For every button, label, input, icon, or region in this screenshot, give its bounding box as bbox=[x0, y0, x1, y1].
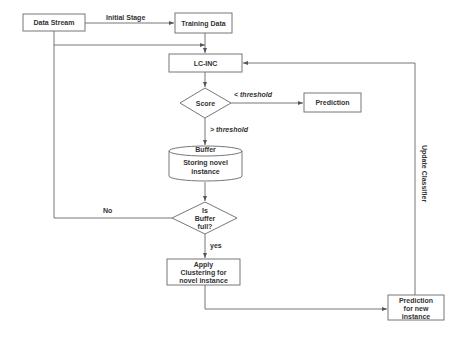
node-is-buffer-full: Is Buffer full? bbox=[172, 202, 237, 234]
decision-line3: full? bbox=[198, 223, 213, 230]
prediction-label: Prediction bbox=[315, 99, 349, 106]
clustering-line3: novel instance bbox=[179, 277, 228, 284]
label-yes: yes bbox=[210, 242, 222, 250]
buffer-line2: instance bbox=[191, 168, 220, 175]
clustering-line1: Apply bbox=[194, 261, 214, 269]
node-buffer: Buffer Storing novel instance bbox=[169, 146, 242, 181]
edge-no-loop bbox=[54, 45, 172, 218]
node-prediction-new: Prediction for new instance bbox=[388, 295, 444, 320]
label-initial-stage: Initial Stage bbox=[106, 14, 145, 22]
label-gt-threshold: > threshold bbox=[210, 126, 249, 133]
buffer-line1: Storing novel bbox=[183, 159, 228, 167]
label-update-classifier: Update Classifier bbox=[420, 145, 428, 202]
node-apply-clustering: Apply Clustering for novel instance bbox=[167, 259, 240, 285]
node-training-data: Training Data bbox=[175, 13, 232, 33]
prediction-new-line3: instance bbox=[402, 313, 431, 320]
prediction-new-line2: for new bbox=[404, 305, 429, 312]
label-lt-threshold: < threshold bbox=[234, 91, 273, 98]
node-score: Score bbox=[180, 88, 231, 118]
decision-line2: Buffer bbox=[195, 215, 216, 222]
training-data-label: Training Data bbox=[181, 20, 225, 28]
node-prediction: Prediction bbox=[304, 93, 361, 112]
node-data-stream: Data Stream bbox=[23, 14, 85, 31]
clustering-line2: Clustering for bbox=[181, 269, 227, 277]
label-no: No bbox=[103, 207, 112, 214]
buffer-title: Buffer bbox=[195, 146, 216, 153]
prediction-new-line1: Prediction bbox=[399, 297, 433, 304]
flowchart: Initial Stage < threshold > threshold No… bbox=[0, 0, 462, 338]
lc-inc-label: LC-INC bbox=[194, 60, 218, 67]
decision-line1: Is bbox=[202, 207, 208, 214]
edge-clustering-to-prediction-new bbox=[205, 285, 387, 309]
data-stream-label: Data Stream bbox=[34, 19, 75, 26]
score-label: Score bbox=[196, 100, 216, 107]
node-lc-inc: LC-INC bbox=[169, 54, 242, 72]
